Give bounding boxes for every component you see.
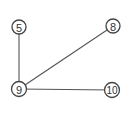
node-label: 8 [110,21,116,33]
node-5: 5 [12,20,26,34]
node-label: 10 [106,85,118,96]
node-9: 9 [12,82,27,97]
node-label: 9 [16,84,22,96]
node-label: 5 [16,22,22,34]
node-10: 10 [105,83,120,98]
graph-diagram: 5 8 9 10 [0,0,129,116]
edge-9-8 [19,26,113,89]
edge-9-10 [19,89,112,90]
node-8: 8 [106,19,120,33]
